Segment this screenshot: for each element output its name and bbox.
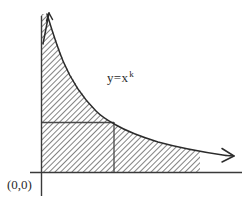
equation-base: x [121,70,128,85]
origin-label: (0,0) [7,178,32,191]
inscribed-rectangle-fill [41,122,114,172]
math-figure: y=xk (0,0) [0,0,242,201]
equation-exponent: k [129,69,134,79]
graph-canvas [0,0,242,201]
equation-lhs: y= [107,70,121,85]
curve-equation-label: y=xk [107,70,134,84]
